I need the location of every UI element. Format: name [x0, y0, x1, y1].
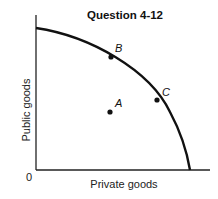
- ppf-chart: Question 4-12 B C A Public goods Private…: [0, 0, 218, 199]
- point-b-label: B: [115, 42, 122, 54]
- point-a-marker: [107, 109, 112, 114]
- point-b-marker: [108, 54, 113, 59]
- x-axis-label: Private goods: [74, 178, 174, 190]
- point-a-label: A: [115, 97, 122, 109]
- ppf-curve: [36, 28, 190, 170]
- chart-plot-area: [0, 0, 218, 199]
- y-axis-label: Public goods: [20, 70, 32, 150]
- origin-label: 0: [26, 171, 32, 183]
- point-c-marker: [154, 97, 159, 102]
- point-c-label: C: [162, 86, 170, 98]
